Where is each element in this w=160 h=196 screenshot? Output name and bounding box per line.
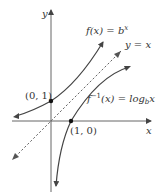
exponential-arrow-left-icon <box>13 113 19 119</box>
identity-line <box>13 51 121 159</box>
logarithm-arrow-top-icon <box>124 66 131 71</box>
point-0-1-label: (0, 1) <box>25 90 52 101</box>
exponential-label: f(x) = bx <box>85 24 128 36</box>
logarithm-label: f−1(x) = logbx <box>86 92 155 106</box>
identity-label: y = x <box>124 39 151 50</box>
point-1-0-label: (1, 0) <box>70 125 97 136</box>
x-axis-label: x <box>146 125 152 136</box>
point-1-0 <box>69 119 73 123</box>
exponential-curve <box>16 42 103 116</box>
y-axis-label: y <box>41 8 48 19</box>
inverse-function-graph: y x f(x) = bx y = x f−1(x) = logbx (0, 1… <box>0 0 160 196</box>
